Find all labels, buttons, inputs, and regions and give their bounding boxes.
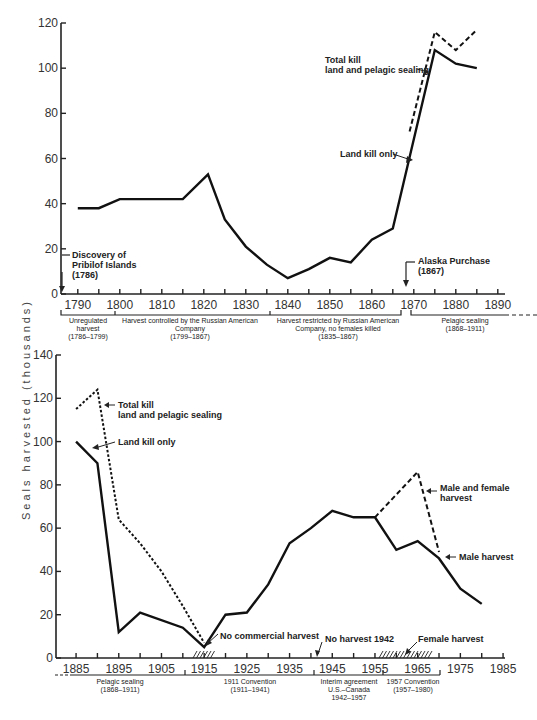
svg-text:land and pelagic sealing: land and pelagic sealing xyxy=(118,410,222,420)
x-tick-label: 1850 xyxy=(316,298,343,312)
svg-text:Company: Company xyxy=(175,325,205,333)
top-total-kill-label: Total kill land and pelagic sealing xyxy=(325,55,429,75)
alaska-line2: (1867) xyxy=(418,266,444,276)
x-tick-label: 1945 xyxy=(319,662,346,676)
svg-text:Pelagic sealing: Pelagic sealing xyxy=(441,317,488,325)
arrow-down-icon xyxy=(59,286,65,292)
svg-text:land and pelagic sealing: land and pelagic sealing xyxy=(325,65,429,75)
x-tick-label: 1820 xyxy=(190,298,217,312)
svg-text:Unregulated: Unregulated xyxy=(69,317,107,325)
arrow-left-icon xyxy=(445,554,450,560)
y-tick-label: 80 xyxy=(45,106,59,120)
svg-text:1957 Convention: 1957 Convention xyxy=(387,678,440,685)
alaska-line1: Alaska Purchase xyxy=(418,256,490,266)
y-tick-label: 40 xyxy=(40,564,54,578)
male-female-label: Male and female harvest xyxy=(426,483,510,503)
svg-text:(1957–1980): (1957–1980) xyxy=(393,686,433,694)
female-harvest-label: Female harvest xyxy=(405,634,484,655)
y-tick-label: 100 xyxy=(33,435,53,449)
x-tick-label: 1870 xyxy=(400,298,427,312)
svg-text:U.S.–Canada: U.S.–Canada xyxy=(328,686,370,693)
x-tick-label: 1800 xyxy=(106,298,133,312)
discovery-line1: Discovery of xyxy=(72,250,127,260)
svg-text:Male and female: Male and female xyxy=(440,483,510,493)
discovery-annotation: Discovery of Pribilof Islands (1786) xyxy=(59,250,137,292)
svg-text:No harvest 1942: No harvest 1942 xyxy=(325,634,394,644)
svg-text:(1868–1911): (1868–1911) xyxy=(445,325,484,333)
x-tick-label: 1955 xyxy=(362,662,389,676)
y-tick-label: 120 xyxy=(33,391,53,405)
x-tick-label: 1810 xyxy=(148,298,175,312)
alaska-annotation: Alaska Purchase (1867) xyxy=(403,256,490,287)
x-tick-label: 1885 xyxy=(63,662,90,676)
x-tick-label: 1925 xyxy=(234,662,261,676)
bottom-series xyxy=(76,390,482,648)
y-tick-label: 140 xyxy=(33,348,53,362)
x-tick-label: 1915 xyxy=(191,662,218,676)
x-tick-label: 1905 xyxy=(148,662,175,676)
x-tick-label: 1880 xyxy=(442,298,469,312)
svg-text:(1868–1911): (1868–1911) xyxy=(100,686,139,694)
x-tick-label: 1975 xyxy=(447,662,474,676)
y-axis-label: Seals harvested (thousands) xyxy=(20,299,32,520)
x-tick-label: 1935 xyxy=(276,662,303,676)
x-tick-label: 1830 xyxy=(232,298,259,312)
svg-text:No commercial harvest: No commercial harvest xyxy=(220,631,319,641)
svg-text:(1911–1941): (1911–1941) xyxy=(230,686,269,694)
svg-text:Land kill only: Land kill only xyxy=(118,437,176,447)
arrow-left-icon xyxy=(426,488,431,494)
svg-text:Female harvest: Female harvest xyxy=(418,634,484,644)
y-tick-label: 100 xyxy=(38,61,58,75)
svg-text:Land kill only: Land kill only xyxy=(340,149,398,159)
discovery-line3: (1786) xyxy=(72,270,98,280)
male-harvest-label: Male harvest xyxy=(445,552,514,562)
series-line xyxy=(375,472,439,552)
y-tick-label: 20 xyxy=(40,608,54,622)
y-tick-label: 20 xyxy=(45,242,59,256)
no-commercial-label: No commercial harvest xyxy=(206,631,319,646)
y-tick-label: 80 xyxy=(40,478,54,492)
arrow-down-icon xyxy=(403,280,409,287)
top-chart: 0204060801001201790180018101820183018401… xyxy=(38,16,537,341)
svg-text:(1799–1867): (1799–1867) xyxy=(170,333,210,341)
series-line xyxy=(76,390,204,643)
y-tick-label: 40 xyxy=(45,197,59,211)
svg-text:Male harvest: Male harvest xyxy=(459,552,514,562)
svg-text:Pelagic sealing: Pelagic sealing xyxy=(96,678,143,686)
svg-text:Interim agreement: Interim agreement xyxy=(321,678,378,686)
top-land-kill-label: Land kill only xyxy=(340,149,413,163)
x-tick-label: 1890 xyxy=(484,298,511,312)
svg-text:Total kill: Total kill xyxy=(118,400,154,410)
svg-text:1942–1957: 1942–1957 xyxy=(331,694,366,701)
y-tick-label: 60 xyxy=(40,521,54,535)
svg-text:Harvest controlled by the Russ: Harvest controlled by the Russian Americ… xyxy=(122,317,258,325)
bottom-periods: Pelagic sealing (1868–1911) 1911 Convent… xyxy=(55,670,440,701)
bottom-total-kill-label: Total kill land and pelagic sealing xyxy=(104,400,222,420)
x-tick-label: 1985 xyxy=(490,662,517,676)
arrow-left-icon xyxy=(92,444,99,450)
bottom-chart: 0204060801001201401885189519051915192519… xyxy=(33,348,517,701)
top-periods: Unregulated harvest (1786–1799) Harvest … xyxy=(61,310,537,341)
bottom-axes: 0204060801001201401885189519051915192519… xyxy=(33,348,517,676)
y-tick-label: 0 xyxy=(46,651,53,665)
y-tick-label: 0 xyxy=(51,287,58,301)
svg-text:1911 Convention: 1911 Convention xyxy=(224,678,277,685)
svg-text:harvest: harvest xyxy=(77,325,100,332)
y-tick-label: 120 xyxy=(38,16,58,30)
series-line xyxy=(78,50,477,278)
no-harvest-1942-label: No harvest 1942 xyxy=(315,634,394,657)
arrow-down-icon xyxy=(315,650,320,657)
svg-text:(1835–1867): (1835–1867) xyxy=(318,333,358,341)
x-tick-label: 1840 xyxy=(274,298,301,312)
arrow-left-icon xyxy=(104,402,109,408)
svg-text:Company, no females killed: Company, no females killed xyxy=(295,325,381,333)
discovery-line2: Pribilof Islands xyxy=(72,260,137,270)
y-tick-label: 60 xyxy=(45,152,59,166)
series-line xyxy=(76,442,482,648)
x-tick-label: 1895 xyxy=(105,662,132,676)
seal-harvest-chart: Seals harvested (thousands) 020406080100… xyxy=(0,0,537,720)
x-tick-label: 1860 xyxy=(358,298,385,312)
svg-text:(1786–1799): (1786–1799) xyxy=(68,333,108,341)
x-tick-label: 1790 xyxy=(64,298,91,312)
svg-text:harvest: harvest xyxy=(440,493,472,503)
